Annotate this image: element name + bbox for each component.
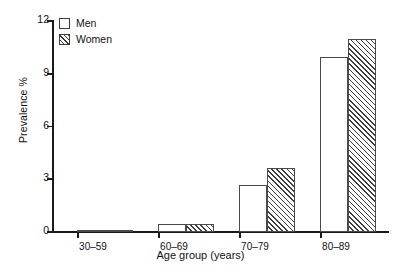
- bar-men-80-89: [320, 57, 348, 232]
- bar-men-70-79: [239, 185, 267, 232]
- x-tick-1: [158, 233, 160, 238]
- legend-item-men: Men: [59, 15, 112, 31]
- y-tick-label-6: 6: [43, 119, 49, 131]
- y-tick-label-3: 3: [43, 171, 49, 183]
- bar-women-60-69: [186, 224, 214, 232]
- legend-label-men: Men: [76, 17, 96, 29]
- chart-figure: Prevalence % 0 3 6 9 12 3: [0, 0, 401, 272]
- bar-women-30-59: [105, 230, 133, 232]
- bar-women-80-89: [348, 39, 376, 232]
- bar-men-30-59: [77, 230, 105, 232]
- x-axis-title: Age group (years): [0, 249, 401, 261]
- legend-label-women: Women: [76, 33, 112, 45]
- legend-item-women: Women: [59, 31, 112, 47]
- y-tick-label-12: 12: [37, 13, 49, 25]
- bar-men-60-69: [158, 224, 186, 232]
- y-axis-spine: [52, 20, 54, 233]
- open-square-swatch-icon: [59, 18, 70, 29]
- y-tick-label-9: 9: [43, 66, 49, 78]
- x-tick-0: [77, 233, 79, 238]
- hatched-square-swatch-icon: [59, 34, 70, 45]
- plot-area: 0 3 6 9 12 30–59 60–69 70–79 80–89: [52, 20, 389, 232]
- chart-legend: Men Women: [59, 15, 112, 47]
- x-tick-2: [239, 233, 241, 238]
- y-axis-title: Prevalence %: [17, 55, 29, 165]
- x-tick-3: [320, 233, 322, 238]
- bar-women-70-79: [267, 168, 295, 232]
- y-tick-label-0: 0: [43, 224, 49, 236]
